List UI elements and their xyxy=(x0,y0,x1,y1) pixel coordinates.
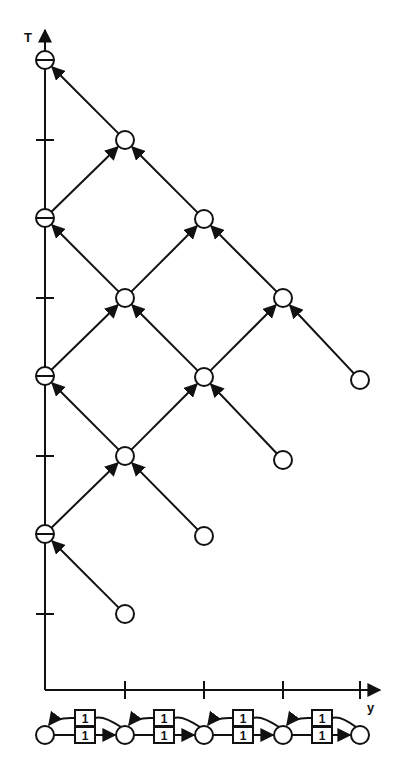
edge-arrow xyxy=(52,225,119,292)
lattice-node xyxy=(116,131,134,149)
edge-arrow xyxy=(290,305,354,373)
lattice-diagram: 11111111 T y xyxy=(0,0,409,777)
chain-place xyxy=(195,726,213,744)
lattice-node xyxy=(116,605,134,623)
edge-arrow xyxy=(51,305,117,370)
transition-label-top: 1 xyxy=(161,712,168,726)
chain-arrow-back xyxy=(129,718,154,725)
transition-label-top: 1 xyxy=(319,712,326,726)
transition-label-bottom: 1 xyxy=(161,729,168,743)
transition-label-bottom: 1 xyxy=(82,729,89,743)
lattice-node xyxy=(195,210,213,228)
chain-place xyxy=(36,726,54,744)
chain-place xyxy=(274,726,292,744)
lattice-node xyxy=(351,371,369,389)
transition-label-bottom: 1 xyxy=(240,729,247,743)
chain-arrow-back xyxy=(287,718,312,725)
chain-link xyxy=(174,717,200,727)
edge-arrow xyxy=(132,463,198,529)
edge-arrow xyxy=(52,541,119,608)
lattice-node xyxy=(116,289,134,307)
edge-arrow xyxy=(51,147,117,212)
axes xyxy=(36,30,380,699)
chain-place xyxy=(116,726,134,744)
edge-arrow xyxy=(210,305,276,371)
edge-arrow xyxy=(131,384,197,450)
chain-link xyxy=(332,717,356,727)
transition-label-bottom: 1 xyxy=(319,729,326,743)
edge-arrow xyxy=(51,463,117,528)
transition-label-top: 1 xyxy=(82,712,89,726)
chain-arrow-back xyxy=(208,718,233,725)
lattice-node xyxy=(195,368,213,386)
lattice-node xyxy=(274,289,292,307)
lattice-node xyxy=(195,527,213,545)
lattice-node xyxy=(116,447,134,465)
t-axis-label: T xyxy=(24,30,32,45)
chain-place xyxy=(351,726,369,744)
edge-arrow xyxy=(131,226,197,292)
edge-arrow xyxy=(211,384,277,453)
transition-label-top: 1 xyxy=(240,712,247,726)
petri-chain: 11111111 xyxy=(36,710,369,744)
edge-arrow xyxy=(52,67,119,134)
edge-arrow xyxy=(132,305,198,371)
chain-arrow-back xyxy=(49,718,75,725)
edge-arrow xyxy=(211,226,277,292)
chain-link xyxy=(95,717,121,727)
chain-link xyxy=(253,717,279,727)
lattice-node xyxy=(274,451,292,469)
edge-arrow xyxy=(132,147,198,213)
edge-arrow xyxy=(52,383,119,450)
y-axis-label: y xyxy=(367,700,375,715)
